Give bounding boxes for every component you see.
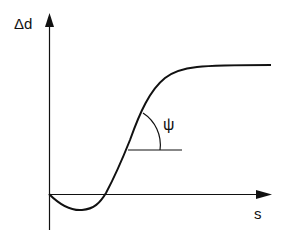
y-axis-label: Δd [14,15,32,32]
angle-label: ψ [163,116,174,133]
x-axis-label: s [254,205,262,222]
y-axis-arrow-icon [45,13,54,27]
angle-arc [143,113,160,150]
x-axis-arrow-icon [256,190,272,199]
diagram-canvas: Δd ψ s [0,0,284,242]
